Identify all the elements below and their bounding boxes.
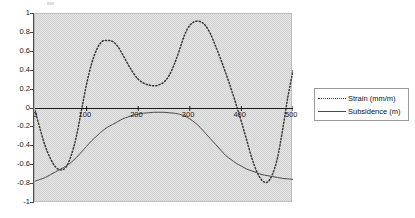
y-tick-label: -0.6 xyxy=(6,160,30,168)
y-tick-mark xyxy=(30,145,34,146)
y-tick-label: 0 xyxy=(6,104,30,112)
y-tick-label: -0.2 xyxy=(6,122,30,130)
axis-group xyxy=(35,106,293,111)
chart-legend: Strain (mm/m) Subsidence (m) xyxy=(314,88,409,121)
chart-container: 10.80.60.40.20-0.2-0.4-0.6-0.8-1 0100200… xyxy=(0,0,415,218)
scan-artifact xyxy=(47,2,54,5)
x-tick-label: 300 xyxy=(182,111,195,119)
x-tick-label: 400 xyxy=(233,111,246,119)
x-tick-label: 500 xyxy=(285,111,298,119)
series-line-2 xyxy=(35,112,293,181)
plot-svg xyxy=(35,14,293,203)
y-tick-mark xyxy=(30,89,34,90)
x-tick-label: 200 xyxy=(130,111,143,119)
y-tick-mark xyxy=(30,126,34,127)
y-tick-mark xyxy=(30,51,34,52)
y-tick-label: 0.8 xyxy=(6,28,30,36)
y-tick-label: 0.2 xyxy=(6,85,30,93)
y-tick-mark xyxy=(30,13,34,14)
x-tick-label: 100 xyxy=(79,111,92,119)
legend-label-strain: Strain (mm/m) xyxy=(348,94,396,103)
y-tick-mark xyxy=(30,183,34,184)
y-tick-label: -0.4 xyxy=(6,141,30,149)
y-tick-label: -1 xyxy=(6,198,30,206)
y-tick-label: -0.8 xyxy=(6,179,30,187)
y-tick-label: 0.6 xyxy=(6,47,30,55)
legend-swatch-solid-icon xyxy=(318,108,348,116)
series-group xyxy=(35,21,293,182)
y-tick-mark xyxy=(30,32,34,33)
y-tick-mark xyxy=(30,202,34,203)
y-tick-label: 0.4 xyxy=(6,66,30,74)
series-line-1 xyxy=(35,21,293,182)
legend-label-subsidence: Subsidence (m) xyxy=(348,107,401,116)
legend-item-strain: Strain (mm/m) xyxy=(318,92,406,105)
y-tick-mark xyxy=(30,108,34,109)
y-tick-mark xyxy=(30,70,34,71)
y-tick-mark xyxy=(30,164,34,165)
legend-item-subsidence: Subsidence (m) xyxy=(318,105,406,118)
legend-swatch-dotted-icon xyxy=(318,95,348,103)
plot-area xyxy=(34,13,292,202)
y-tick-label: 1 xyxy=(6,9,30,17)
